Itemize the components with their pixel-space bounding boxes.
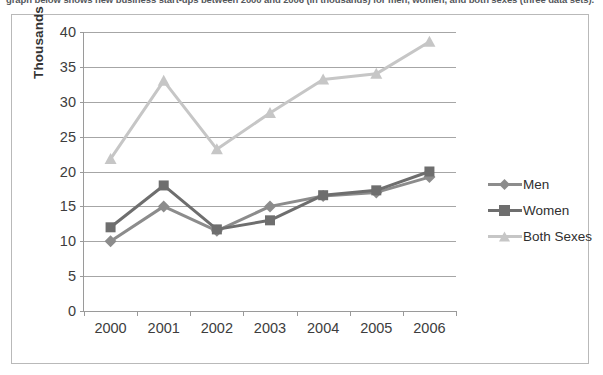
legend-item-women[interactable]: Women [488,197,584,223]
x-tick-label: 2000 [94,320,126,336]
y-tick-label: 30 [60,94,76,110]
y-tick-label: 10 [60,233,76,249]
x-tick-mark [190,311,191,316]
x-tick-mark [456,311,457,316]
x-tick-mark [350,311,351,316]
y-tick-label: 5 [68,268,76,284]
x-tick-label: 2003 [254,320,286,336]
x-tick-mark [297,311,298,316]
legend-item-both-sexes[interactable]: Both Sexes [488,223,584,249]
data-point-marker [106,222,116,232]
legend-item-men[interactable]: Men [488,171,584,197]
data-point-marker [264,200,276,212]
legend-swatch [488,229,522,243]
x-tick-mark [403,311,404,316]
data-point-marker [424,167,434,177]
y-tick-label: 35 [60,59,76,75]
x-tick-label: 2006 [413,320,445,336]
x-tick-label: 2004 [307,320,339,336]
series-both-sexes [105,36,436,164]
x-tick-label: 2005 [360,320,392,336]
y-axis-title-text: Thousands [31,6,46,79]
data-point-marker [318,190,328,200]
data-point-marker [158,75,170,86]
y-axis-title: Thousands [27,35,49,195]
series-line [111,42,430,159]
y-tick-label: 0 [68,303,76,319]
legend-label: Men [522,177,549,192]
y-tick-label: 25 [60,129,76,145]
plot-area: 0510152025303540 20002001200220032004200… [83,32,456,312]
x-tick-mark [84,311,85,316]
legend-marker-square-icon [499,205,510,216]
y-tick-label: 40 [60,24,76,40]
y-tick-label: 15 [60,198,76,214]
data-point-marker [423,36,435,47]
legend-swatch [488,177,522,191]
x-tick-label: 2002 [201,320,233,336]
legend-label: Women [522,203,569,218]
x-tick-label: 2001 [148,320,180,336]
series-men [105,171,436,247]
x-tick-mark [137,311,138,316]
y-tick-label: 20 [60,164,76,180]
data-point-marker [265,215,275,225]
series-layer [84,32,456,311]
legend-swatch [488,203,522,217]
data-point-marker [159,180,169,190]
chart-figure: Thousands 0510152025303540 2000200120022… [11,14,589,364]
data-point-marker [371,185,381,195]
x-tick-mark [243,311,244,316]
legend-marker-diamond-icon [499,179,510,190]
caption-text: graph below shows new business start-ups… [6,0,594,5]
legend-label: Both Sexes [522,229,592,244]
chart-legend: MenWomenBoth Sexes [488,171,584,249]
data-point-marker [212,224,222,234]
caption-strip: graph below shows new business start-ups… [0,0,603,11]
